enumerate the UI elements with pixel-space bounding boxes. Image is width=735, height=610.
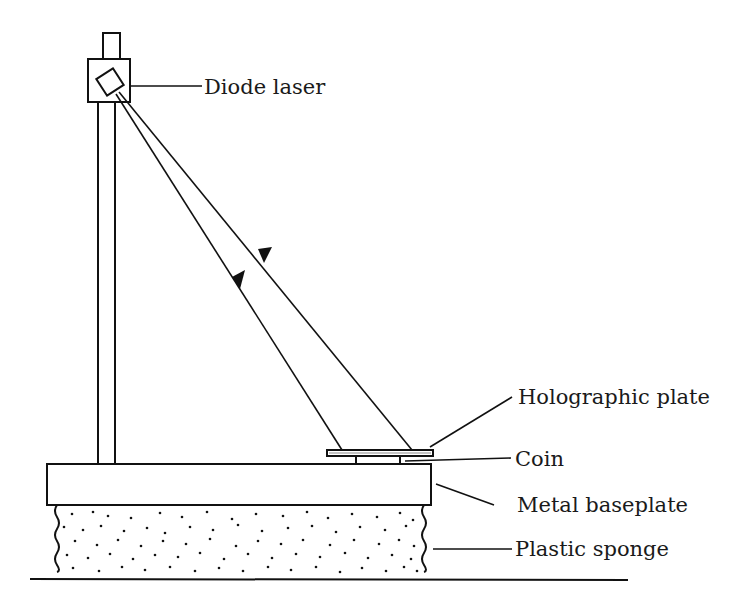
coin bbox=[356, 456, 400, 464]
label-metal-baseplate: Metal baseplate bbox=[517, 493, 688, 517]
holographic-plate bbox=[327, 450, 433, 456]
sponge-texture bbox=[63, 511, 419, 574]
beam-2-arrow-icon bbox=[258, 247, 272, 263]
plastic-sponge bbox=[55, 505, 426, 573]
leader-coin bbox=[405, 458, 511, 461]
label-holographic-plate: Holographic plate bbox=[518, 385, 710, 409]
laser-beams bbox=[116, 92, 412, 450]
label-coin: Coin bbox=[515, 447, 564, 471]
leader-holographic-plate bbox=[430, 397, 512, 447]
diode-laser bbox=[88, 59, 130, 102]
label-plastic-sponge: Plastic sponge bbox=[515, 537, 669, 561]
vertical-post bbox=[98, 33, 120, 464]
leader-metal-baseplate bbox=[436, 484, 494, 505]
post-top-nub bbox=[103, 33, 120, 59]
ground-line bbox=[30, 579, 628, 580]
beam-2 bbox=[119, 92, 412, 450]
laser-diode-icon bbox=[93, 65, 126, 98]
holography-setup-diagram: Diode laser Holographic plate Coin Metal… bbox=[0, 0, 735, 610]
label-diode-laser: Diode laser bbox=[204, 75, 326, 99]
metal-baseplate bbox=[47, 464, 431, 505]
beam-1 bbox=[116, 94, 342, 450]
beam-1-arrow-icon bbox=[232, 270, 245, 289]
